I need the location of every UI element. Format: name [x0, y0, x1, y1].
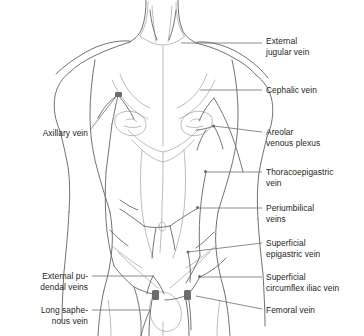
label-thoracoepigastric-vein: Thoracoepigastric vein — [266, 167, 333, 189]
label-superficial-circumflex-iliac-vein: Superficial circumflex iliac vein — [266, 272, 339, 294]
right-groin-node — [184, 290, 191, 300]
anatomical-figure-superficial-veins: External jugular veinCephalic veinAreola… — [0, 0, 364, 336]
thoracoepigastric-node — [204, 170, 207, 173]
label-femoral-vein: Femoral vein — [266, 305, 315, 316]
left-groin-node — [152, 290, 159, 300]
vein-junction-nodes — [115, 92, 215, 300]
label-external-jugular-vein: External jugular vein — [266, 36, 309, 58]
label-superficial-epigastric-vein: Superficial epigastric vein — [266, 238, 320, 260]
leader-line-femoral-vein — [196, 296, 262, 309]
body-surface-detail — [108, 2, 220, 336]
label-axillary-vein: Axillary vein — [18, 128, 88, 139]
label-areolar-venous-plexus: Areolar venous plexus — [266, 127, 320, 149]
label-external-pudendal-veins: External pu- dendal veins — [8, 271, 88, 293]
label-cephalic-vein: Cephalic vein — [266, 85, 317, 96]
leader-line-axillary-vein — [90, 94, 118, 130]
periumbilical-node — [196, 206, 199, 209]
superficial-vein-network — [98, 10, 243, 336]
label-long-saphenous-vein: Long saphe- nous vein — [8, 305, 88, 327]
circumflex-iliac-node — [198, 275, 201, 278]
label-periumbilical-veins: Periumbilical veins — [266, 203, 314, 225]
